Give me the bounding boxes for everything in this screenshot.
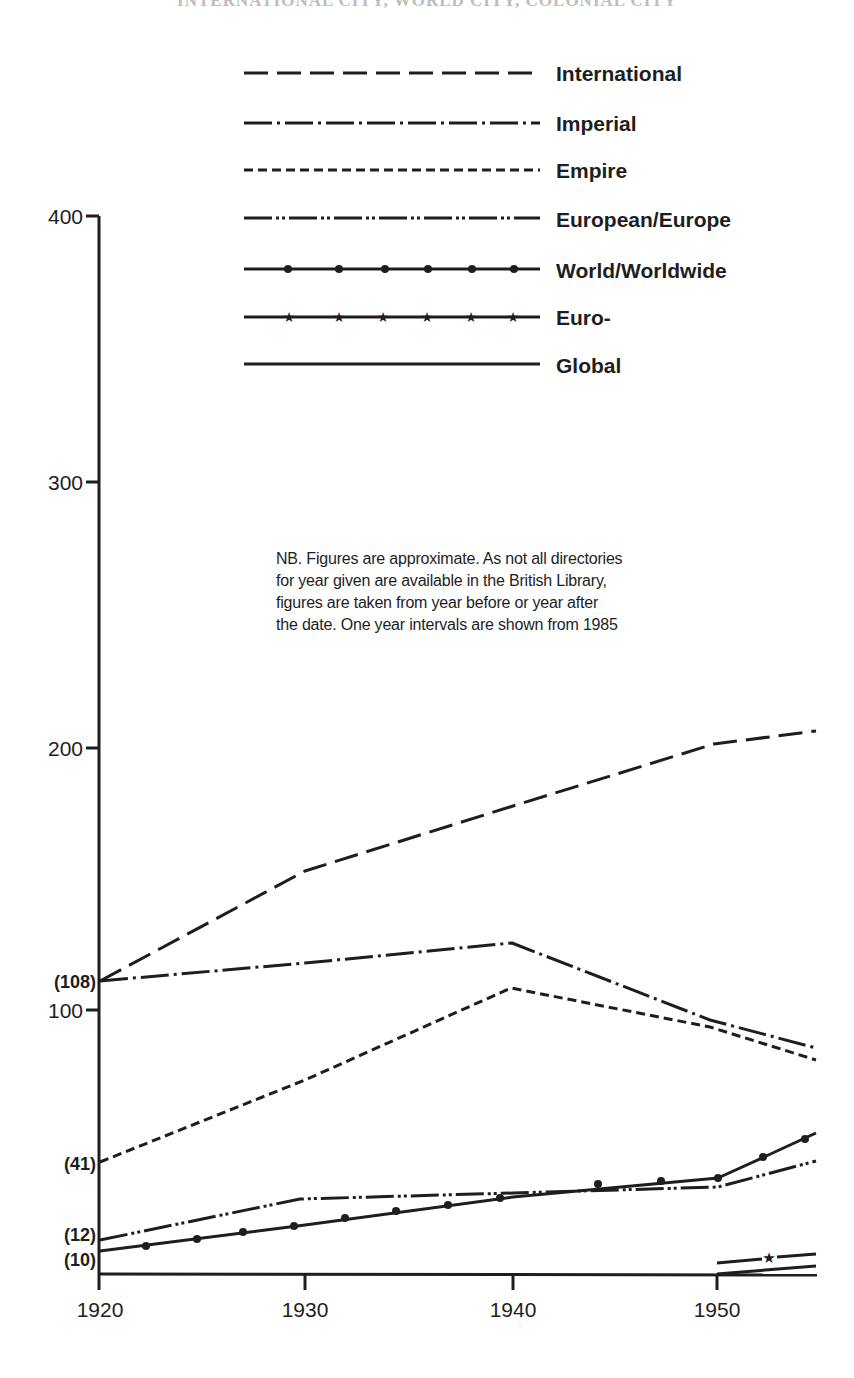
x-tick-label-1920: 1920 [77,1298,124,1321]
x-tick-label-1950: 1950 [694,1298,741,1321]
note-line: for year given are available in the Brit… [276,570,706,592]
start-label-10: (10) [64,1250,96,1270]
note-line: the date. One year intervals are shown f… [276,614,706,636]
series-european [100,1161,816,1240]
series-world [100,1133,816,1251]
svg-text:★: ★ [377,309,390,325]
legend-label-empire: Empire [556,159,627,182]
chart-note: NB. Figures are approximate. As not all … [276,548,706,636]
legend-label-international: International [556,62,682,85]
start-label-41: (41) [64,1154,96,1174]
y-axis [86,216,99,1290]
series-global [717,1266,816,1274]
series-empire [100,988,816,1162]
svg-text:★: ★ [333,309,346,325]
series-euro: ★ [717,1249,816,1267]
legend-label-european: European/Europe [556,208,731,231]
y-tick-label-100: 100 [48,999,83,1022]
svg-text:★: ★ [283,309,296,325]
note-line: figures are taken from year before or ye… [276,592,706,614]
legend-label-world: World/Worldwide [556,259,727,282]
note-line: NB. Figures are approximate. As not all … [276,548,706,570]
line-chart: ★★★ ★★★ [0,0,854,1378]
x-tick-label-1940: 1940 [490,1298,537,1321]
start-label-12: (12) [64,1225,96,1245]
start-label-108: (108) [54,972,96,992]
series-imperial [100,943,816,1048]
y-tick-label-200: 200 [48,737,83,760]
svg-text:★: ★ [762,1249,775,1267]
x-tick-label-1930: 1930 [282,1298,329,1321]
legend-label-imperial: Imperial [556,112,637,135]
y-tick-label-400: 400 [48,205,83,228]
y-tick-label-300: 300 [48,471,83,494]
legend-swatch-world [244,265,540,273]
series-international [100,731,816,981]
legend-swatch-euro: ★★★ ★★★ [244,309,540,325]
x-axis [99,1274,817,1290]
svg-text:★: ★ [421,309,434,325]
svg-text:★: ★ [465,309,478,325]
legend-label-global: Global [556,354,621,377]
legend-label-euro: Euro- [556,306,611,329]
svg-text:★: ★ [507,309,520,325]
